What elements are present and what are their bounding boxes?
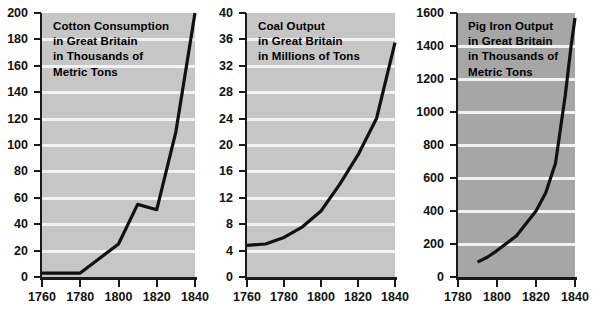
series-line [247,43,395,246]
data-series-cotton-consumption [0,0,206,315]
chart-panel-coal-output: Coal Output in Great Britain in Millions… [206,0,402,315]
series-line [478,18,576,262]
data-series-coal-output [206,0,412,315]
chart-panel-pig-iron-output: Pig Iron Output in Great Britain in Thou… [402,0,606,315]
three-panel-line-chart-figure: Cotton Consumption in Great Britain in T… [0,0,606,315]
series-line [42,13,195,273]
data-series-pig-iron-output [402,0,606,315]
chart-panel-cotton-consumption: Cotton Consumption in Great Britain in T… [0,0,206,315]
